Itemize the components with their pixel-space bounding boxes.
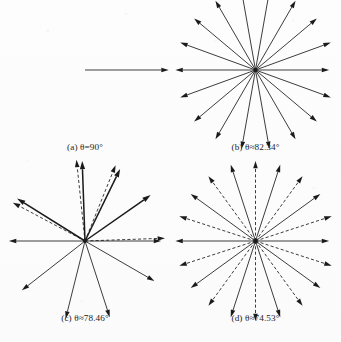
vector-arrowhead bbox=[22, 284, 29, 290]
vector-arrowhead bbox=[323, 43, 331, 48]
vector-origin-point bbox=[254, 239, 258, 243]
vector-shaft bbox=[200, 23, 256, 70]
vector-shaft bbox=[213, 241, 256, 300]
vector-shaft bbox=[85, 241, 148, 277]
vector-arrowhead bbox=[180, 93, 188, 98]
vector-arrowhead bbox=[322, 239, 329, 244]
panel-c-caption: (c) θ≈78.46° bbox=[61, 313, 108, 323]
vector-shaft bbox=[256, 70, 312, 117]
vector-shaft bbox=[85, 200, 144, 241]
panel-b-caption: (b) θ≈82.34° bbox=[232, 142, 280, 152]
vector-arrowhead bbox=[161, 68, 168, 73]
panel-d-vector-diagram bbox=[170, 171, 341, 311]
vector-arrowhead bbox=[179, 216, 187, 220]
panel-c: (c) θ≈78.46° bbox=[0, 171, 170, 342]
vector-arrowhead bbox=[215, 132, 221, 140]
vector-shaft bbox=[256, 172, 278, 241]
vector-shaft bbox=[187, 70, 255, 95]
vector-arrowhead bbox=[208, 176, 214, 183]
vector-arrowhead bbox=[290, 132, 296, 140]
panel-a: (a) θ=90° bbox=[0, 0, 170, 171]
vector-shaft bbox=[187, 45, 255, 70]
vector-shaft bbox=[256, 219, 325, 241]
vector-arrowhead bbox=[215, 1, 221, 9]
vector-shaft bbox=[67, 241, 85, 312]
vector-shaft bbox=[256, 45, 324, 70]
vector-arrowhead bbox=[323, 93, 331, 98]
vector-arrowhead bbox=[180, 43, 188, 48]
vector-shaft bbox=[256, 241, 315, 284]
vector-shaft bbox=[28, 241, 85, 286]
panel-a-svg bbox=[0, 0, 170, 140]
vector-shaft bbox=[186, 219, 255, 241]
vector-shaft bbox=[24, 203, 85, 241]
vector-shaft bbox=[256, 241, 325, 263]
vector-arrowhead bbox=[13, 203, 21, 209]
vector-shaft bbox=[85, 241, 107, 310]
vector-shaft bbox=[256, 198, 315, 241]
vector-shaft bbox=[256, 241, 299, 300]
panel-b-vector-diagram bbox=[170, 0, 341, 140]
vector-arrowhead bbox=[296, 176, 302, 183]
panel-d-svg bbox=[170, 171, 341, 311]
vector-arrowhead bbox=[191, 282, 198, 288]
vector-arrowhead bbox=[147, 275, 155, 281]
vector-arrowhead bbox=[158, 236, 165, 241]
vector-arrowhead bbox=[9, 239, 16, 244]
vector-arrowhead bbox=[208, 298, 214, 305]
panel-b: (b) θ≈82.34° bbox=[170, 0, 341, 171]
vector-arrowhead bbox=[313, 282, 320, 288]
vector-arrowhead bbox=[175, 239, 182, 244]
vector-arrowhead bbox=[142, 195, 150, 202]
vector-shaft bbox=[200, 70, 256, 117]
panel-c-svg bbox=[0, 171, 170, 311]
vector-arrowhead bbox=[324, 216, 332, 220]
vector-arrowhead bbox=[313, 194, 320, 200]
vector-shaft bbox=[186, 241, 255, 263]
panel-d: (d) θ≈74.53° bbox=[170, 171, 341, 342]
panel-c-vector-diagram bbox=[0, 171, 170, 311]
vector-shaft bbox=[213, 182, 256, 241]
vector-shaft bbox=[256, 70, 324, 95]
vector-shaft bbox=[256, 241, 278, 310]
vector-arrowhead bbox=[290, 1, 296, 9]
vector-shaft bbox=[197, 241, 256, 284]
vector-shaft bbox=[233, 241, 255, 310]
vector-shaft bbox=[233, 172, 255, 241]
panel-a-caption: (a) θ=90° bbox=[67, 142, 103, 152]
vector-shaft bbox=[256, 23, 312, 70]
vector-arrowhead bbox=[296, 298, 302, 305]
vector-origin-point bbox=[83, 239, 87, 243]
vector-arrowhead bbox=[324, 261, 332, 265]
vector-arrowhead bbox=[322, 68, 329, 73]
vector-shaft bbox=[197, 198, 256, 241]
vector-shaft bbox=[256, 182, 299, 241]
vector-arrowhead bbox=[175, 68, 182, 73]
vector-origin-point bbox=[254, 68, 258, 72]
vector-shaft bbox=[19, 206, 85, 241]
vector-arrowhead bbox=[179, 261, 187, 265]
figure-panel-grid: (a) θ=90° (b) θ≈82.34° (c) θ≈78.46° (d) … bbox=[0, 0, 341, 342]
vector-arrowhead bbox=[191, 194, 198, 200]
vector-shaft bbox=[85, 176, 117, 241]
panel-b-svg bbox=[170, 0, 341, 140]
panel-a-vector-diagram bbox=[0, 0, 170, 140]
